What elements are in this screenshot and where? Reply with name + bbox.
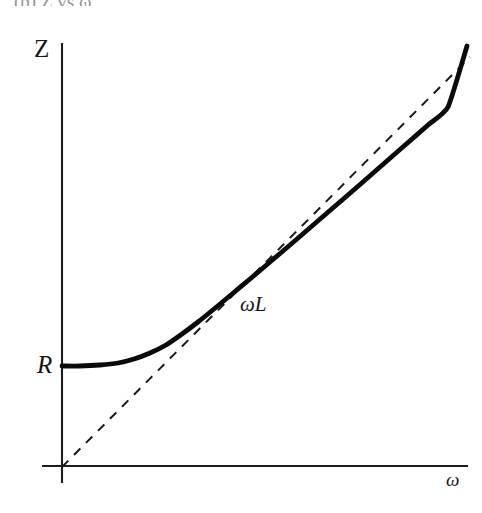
- resistance-intercept-label: R: [37, 352, 52, 377]
- impedance-plot: [0, 0, 482, 513]
- axes-group: [42, 43, 468, 483]
- x-axis-label: ω: [446, 470, 459, 489]
- impedance-curve-line: [62, 46, 467, 366]
- figure-root: (b) Z vs ω Z R ωL ω: [0, 0, 482, 513]
- asymptote-dashed-line: [62, 57, 470, 467]
- asymptote-label: ωL: [240, 294, 267, 315]
- y-axis-label: Z: [34, 36, 49, 61]
